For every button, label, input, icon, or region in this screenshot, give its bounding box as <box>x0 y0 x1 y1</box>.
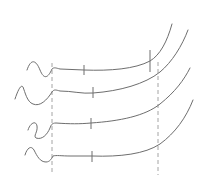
diagram-canvas <box>0 0 204 178</box>
curve-1 <box>27 24 172 77</box>
guide-lines <box>52 62 158 175</box>
curve-2 <box>15 30 188 105</box>
curve-4-path <box>25 100 193 162</box>
curve-4 <box>25 100 193 162</box>
curve-group <box>15 24 193 162</box>
curve-2-path <box>15 30 188 105</box>
